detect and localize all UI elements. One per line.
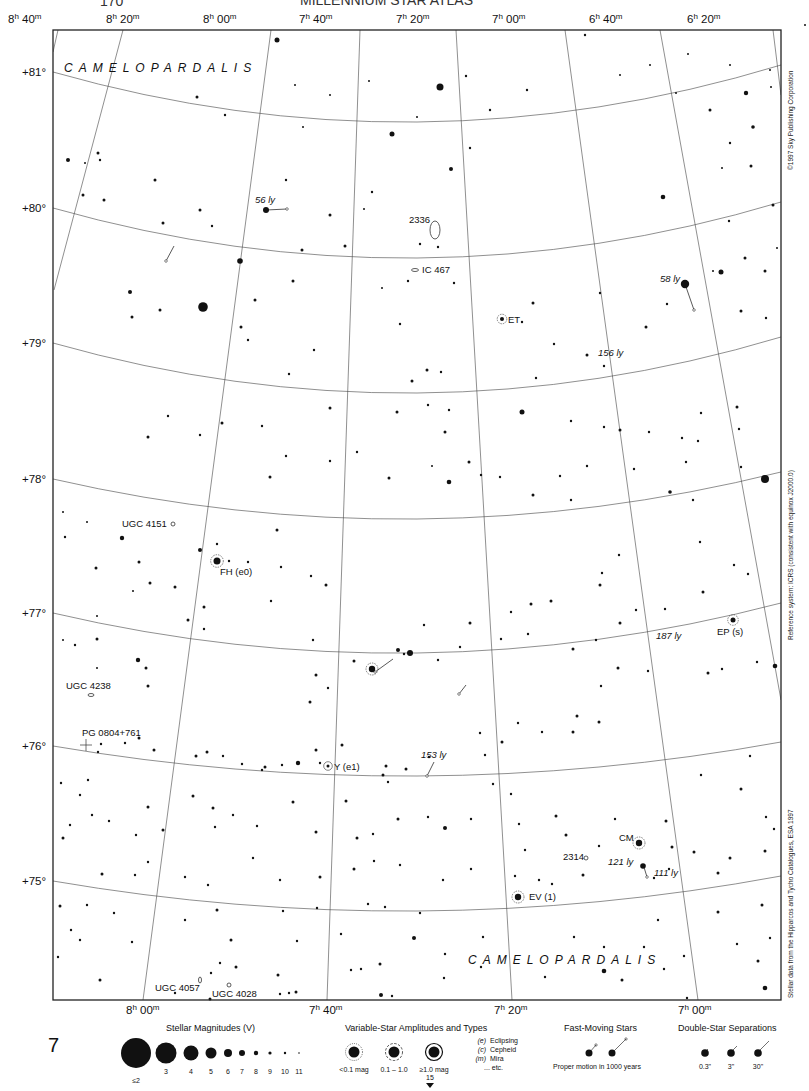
star	[327, 687, 329, 689]
star	[247, 561, 249, 563]
magnitude-dot	[254, 1051, 258, 1055]
variable-legend-label: <0.1 mag	[339, 1066, 368, 1074]
star	[443, 826, 447, 830]
variable-legend-dot	[389, 1047, 400, 1058]
star	[700, 412, 702, 414]
object-label: 2314	[563, 851, 584, 862]
variable-legend-dot	[429, 1047, 440, 1058]
variables-legend: <0.1 mag0.1 – 1.0≥1.0 mag(e)Eclipsing(c)…	[339, 1037, 518, 1074]
magnitude-label: 11	[295, 1068, 302, 1075]
stars-layer	[57, 24, 806, 1001]
ra-gridline	[456, 30, 512, 1000]
star	[315, 749, 318, 752]
magnitude-label: 10	[281, 1068, 289, 1075]
star	[661, 195, 666, 200]
dec-label: +75°	[22, 875, 46, 887]
star	[207, 884, 209, 886]
star	[692, 499, 694, 501]
star	[603, 365, 605, 367]
star	[281, 764, 283, 766]
star	[431, 465, 433, 467]
star	[747, 573, 749, 575]
star	[765, 816, 767, 818]
galaxy-icon	[584, 856, 588, 860]
page-ref-below[interactable]: 15	[426, 1074, 434, 1081]
magnitude-label: 5	[209, 1068, 213, 1075]
constellation-label: CAMELOPARDALIS	[468, 953, 661, 967]
star	[447, 480, 452, 485]
star	[649, 64, 651, 66]
dec-gridline	[53, 742, 781, 776]
magnitude-dot	[298, 1052, 300, 1054]
ra-labels-bottom: 8h 00m7h 40m7h 20m7h 00m	[126, 1003, 712, 1016]
star	[147, 685, 150, 688]
star	[360, 968, 362, 970]
star	[325, 584, 328, 587]
star	[728, 220, 730, 222]
star	[276, 529, 279, 532]
star	[59, 905, 62, 908]
ra-label-bottom: 8h 00m	[126, 1003, 160, 1016]
page-number-top: 170	[100, 0, 124, 9]
copyright-text: ©1997 Sky Publishing Corporation	[787, 70, 795, 170]
star	[740, 788, 743, 791]
star	[763, 986, 768, 991]
star	[683, 955, 685, 957]
double-legend-label: 3"	[728, 1063, 735, 1070]
star	[721, 167, 723, 169]
fast-moving-legend-title: Fast-Moving Stars	[564, 1023, 638, 1033]
data-source-text: Stellar data from the Hipparcos and Tych…	[787, 809, 795, 998]
star	[279, 993, 281, 995]
variable-type-name: ... etc.	[484, 1064, 503, 1071]
star	[738, 428, 740, 430]
variable-star-label: EP (s)	[717, 626, 743, 637]
variable-star-label: EV (1)	[529, 891, 556, 902]
star	[211, 225, 213, 227]
star	[282, 910, 284, 912]
star	[448, 409, 450, 411]
star	[302, 126, 304, 128]
star	[633, 468, 635, 470]
constellation-labels: CAMELOPARDALISCAMELOPARDALIS	[64, 61, 661, 967]
doubles-legend-title: Double-Star Separations	[678, 1023, 777, 1033]
atlas-header: MILLENNIUM STAR ATLAS	[300, 0, 473, 8]
star	[256, 825, 258, 827]
star	[254, 299, 257, 302]
star	[210, 972, 212, 974]
variable-stars: ETFH (e0)EP (s)Y (e1)CMEV (1)	[211, 314, 744, 903]
star	[518, 823, 520, 825]
star	[602, 969, 607, 974]
star	[618, 554, 620, 556]
object-label: 2336	[409, 214, 430, 225]
star	[671, 846, 674, 849]
star	[396, 648, 400, 652]
star	[411, 380, 414, 383]
magnitude-label: 9	[268, 1068, 272, 1075]
star	[96, 615, 98, 617]
star	[199, 209, 202, 212]
star	[237, 258, 243, 264]
star	[216, 909, 219, 912]
star	[524, 849, 526, 851]
magnitude-dot	[206, 1048, 217, 1059]
ra-label-bottom: 7h 40m	[309, 1003, 343, 1016]
star	[292, 801, 295, 804]
chart-number: 7	[48, 1034, 59, 1056]
variable-star	[369, 666, 375, 672]
star	[70, 929, 72, 931]
dec-label: +80°	[22, 202, 46, 214]
star	[668, 490, 672, 494]
star	[555, 815, 558, 818]
star	[261, 769, 263, 771]
arrow-tip-icon	[646, 876, 649, 879]
star	[99, 159, 101, 161]
page-arrow-down-icon[interactable]	[426, 1083, 434, 1088]
star	[442, 879, 444, 881]
star	[379, 993, 383, 997]
star	[407, 650, 413, 656]
star	[235, 966, 238, 969]
star	[572, 731, 575, 734]
star	[313, 349, 315, 351]
magnitude-label: 3	[164, 1068, 168, 1075]
star	[565, 834, 568, 837]
